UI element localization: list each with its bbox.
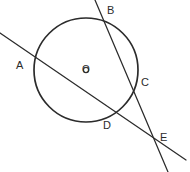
center-label-o: O [82, 65, 90, 75]
point-label-e: E [160, 132, 167, 143]
secant-line-bce [95, 0, 168, 172]
point-label-a: A [16, 60, 23, 71]
point-label-c: C [141, 77, 149, 88]
geometry-figure: A B C D E O [0, 0, 190, 172]
point-label-b: B [107, 5, 114, 16]
point-label-d: D [103, 120, 111, 131]
secant-line-ade [0, 33, 186, 160]
geometry-canvas [0, 0, 190, 172]
